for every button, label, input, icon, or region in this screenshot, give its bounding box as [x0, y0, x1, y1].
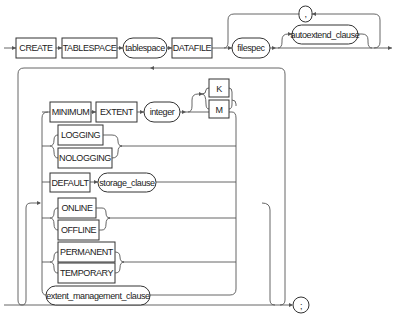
keyword-temporary: TEMPORARY	[58, 263, 115, 283]
keyword-datafile-label: DATAFILE	[173, 43, 212, 53]
arrow-icon	[182, 110, 186, 114]
arrow-icon	[272, 46, 276, 50]
arrow-icon	[388, 46, 392, 50]
arrow-icon	[312, 12, 316, 16]
unit-k: K	[209, 79, 229, 97]
keyword-create: CREATE	[16, 38, 56, 58]
nonterminal-tablespace-label: tablespace	[125, 43, 165, 53]
arrow-icon	[289, 303, 293, 307]
nonterminal-autoextend-clause: autoextend_clause	[291, 25, 360, 44]
keyword-create-label: CREATE	[19, 43, 53, 53]
choice-rail-right	[150, 112, 236, 295]
nonterminal-autoextend-clause-label: autoextend_clause	[291, 30, 360, 40]
keyword-temporary-label: TEMPORARY	[60, 268, 114, 278]
nonterminal-storage-clause: storage_clause	[98, 173, 156, 192]
keyword-default-label: DEFAULT	[51, 178, 89, 188]
nonterminal-extent-management-clause: extent_management_clause	[46, 286, 150, 305]
keyword-online: ONLINE	[58, 198, 96, 218]
arrow-icon	[150, 66, 154, 70]
optional-branch-line	[358, 34, 372, 48]
keyword-logging: LOGGING	[58, 125, 103, 145]
separator-comma-label: ,	[304, 9, 306, 19]
separator-comma: ,	[299, 6, 312, 22]
keyword-offline: OFFLINE	[58, 220, 99, 240]
keyword-permanent-label: PERMANENT	[60, 247, 114, 257]
nonterminal-integer-label: integer	[150, 107, 175, 117]
arrow-icon	[228, 46, 232, 50]
terminator-semicolon-label: ;	[300, 301, 302, 311]
keyword-offline-label: OFFLINE	[61, 225, 97, 235]
arrow-icon	[12, 46, 16, 50]
unit-m: M	[209, 100, 229, 118]
keyword-permanent: PERMANENT	[58, 242, 115, 262]
arrow-icon	[168, 46, 172, 50]
arrow-icon	[119, 46, 123, 50]
nonterminal-filespec-label: filespec	[237, 43, 265, 53]
keyword-tablespace: TABLESPACE	[62, 38, 117, 58]
nonterminal-tablespace: tablespace	[123, 38, 167, 58]
arrow-icon	[140, 110, 144, 114]
options-loop-line	[22, 203, 40, 305]
keyword-minimum-label: MINIMUM	[52, 107, 90, 117]
keyword-extent-label: EXTENT	[100, 107, 134, 117]
arrow-icon	[58, 46, 62, 50]
keyword-extent: EXTENT	[96, 102, 137, 122]
keyword-datafile: DATAFILE	[172, 38, 212, 58]
options-loop-line	[262, 203, 275, 305]
keyword-tablespace-label: TABLESPACE	[63, 43, 117, 53]
nonterminal-storage-clause-label: storage_clause	[99, 178, 155, 188]
keyword-default: DEFAULT	[50, 173, 90, 192]
unit-branch-line	[188, 94, 202, 112]
keyword-logging-label: LOGGING	[61, 130, 101, 140]
keyword-nologging: NOLOGGING	[58, 148, 112, 168]
terminator-semicolon: ;	[293, 297, 309, 313]
arrow-icon	[37, 201, 41, 205]
unit-k-label: K	[216, 84, 222, 94]
keyword-minimum: MINIMUM	[50, 102, 91, 122]
create-tablespace-syntax-diagram: CREATE TABLESPACE tablespace DATAFILE , …	[0, 0, 393, 323]
nonterminal-integer: integer	[144, 102, 180, 122]
keyword-nologging-label: NOLOGGING	[59, 153, 111, 163]
choice-rail-left	[42, 112, 48, 295]
arrow-icon	[92, 110, 96, 114]
nonterminal-filespec: filespec	[232, 38, 270, 58]
keyword-online-label: ONLINE	[61, 203, 93, 213]
options-loop-line	[280, 300, 285, 305]
unit-m-label: M	[215, 105, 222, 115]
nonterminal-extent-management-clause-label: extent_management_clause	[46, 291, 150, 301]
arrow-icon	[94, 180, 98, 184]
